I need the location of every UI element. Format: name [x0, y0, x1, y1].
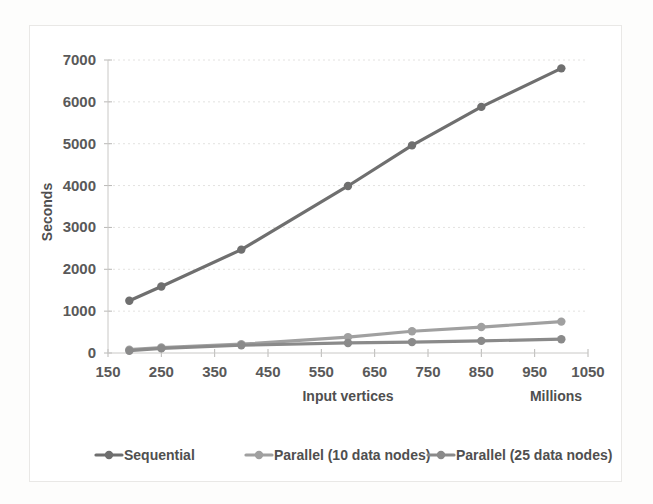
line-chart: 01000200030004000500060007000 1502503504…: [0, 0, 653, 504]
legend-marker-icon: [255, 451, 263, 459]
legend-marker-icon: [437, 451, 445, 459]
y-tick-label: 2000: [63, 260, 96, 277]
data-point[interactable]: [125, 346, 133, 354]
legend-marker-icon: [105, 451, 113, 459]
data-point[interactable]: [477, 103, 485, 111]
y-axis-title: Seconds: [39, 183, 55, 242]
x-tick-label: 350: [202, 363, 227, 380]
legend-item-1[interactable]: Sequential: [96, 447, 195, 463]
chart-page: 01000200030004000500060007000 1502503504…: [0, 0, 653, 504]
data-point[interactable]: [408, 327, 416, 335]
data-point[interactable]: [344, 182, 352, 190]
legend-label: Sequential: [124, 447, 195, 463]
legend-item-3[interactable]: Parallel (25 data nodes): [428, 447, 612, 463]
y-tick-label: 6000: [63, 93, 96, 110]
data-point[interactable]: [557, 64, 565, 72]
data-point[interactable]: [157, 282, 165, 290]
data-point[interactable]: [557, 317, 565, 325]
x-tick-label: 250: [149, 363, 174, 380]
data-point[interactable]: [237, 341, 245, 349]
data-point[interactable]: [344, 339, 352, 347]
y-tick-label: 3000: [63, 218, 96, 235]
y-tick-label: 5000: [63, 135, 96, 152]
legend-label: Parallel (25 data nodes): [456, 447, 612, 463]
data-point[interactable]: [477, 323, 485, 331]
y-tick-label: 1000: [63, 302, 96, 319]
data-point[interactable]: [408, 338, 416, 346]
data-point[interactable]: [408, 141, 416, 149]
x-tick-label: 850: [469, 363, 494, 380]
y-tick-label: 7000: [63, 51, 96, 68]
data-point[interactable]: [237, 245, 245, 253]
x-tick-label: 950: [522, 363, 547, 380]
x-tick-label: 750: [415, 363, 440, 380]
y-tick-label: 4000: [63, 177, 96, 194]
data-point[interactable]: [157, 344, 165, 352]
x-axis-unit-label: Millions: [530, 388, 582, 404]
x-axis-tick-labels: 1502503504505506507508509501050: [95, 363, 604, 380]
data-point[interactable]: [477, 337, 485, 345]
series-1: [125, 64, 565, 305]
x-tick-label: 650: [362, 363, 387, 380]
legend-label: Parallel (10 data nodes): [274, 447, 430, 463]
x-tick-label: 550: [309, 363, 334, 380]
y-axis-tick-labels: 01000200030004000500060007000: [63, 51, 96, 361]
data-point[interactable]: [557, 335, 565, 343]
data-point[interactable]: [125, 296, 133, 304]
x-axis-title: Input vertices: [302, 388, 393, 404]
y-tick-label: 0: [88, 344, 96, 361]
x-tick-label: 450: [255, 363, 280, 380]
tick-marks: [104, 60, 588, 357]
x-tick-label: 150: [95, 363, 120, 380]
chart-legend: SequentialParallel (10 data nodes)Parall…: [96, 447, 612, 463]
legend-item-2[interactable]: Parallel (10 data nodes): [246, 447, 430, 463]
x-tick-label: 1050: [571, 363, 604, 380]
